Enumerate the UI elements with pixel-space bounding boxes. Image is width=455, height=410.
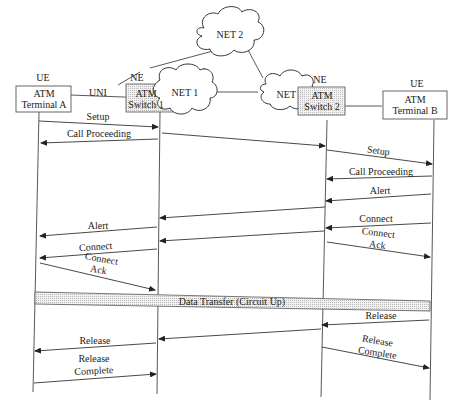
sequence-diagram: UE ATM Terminal A UNI NE NET 2 NET 1 ATM… xyxy=(0,0,455,410)
message-alert-b-s2: Alert xyxy=(326,185,431,201)
message-connect-ack-s2-b: Connect Ack xyxy=(327,225,430,257)
data-transfer-label: Data Transfer (Circuit Up) xyxy=(179,296,285,308)
cloud-net2: NET 2 xyxy=(197,7,264,56)
message-alert-s2-s1 xyxy=(160,207,325,218)
lifeline-switch-1 xyxy=(157,112,160,394)
role-label: NE xyxy=(130,72,143,83)
entity-label-line1: ATM xyxy=(311,90,332,101)
message-setup-a-s1: Setup xyxy=(39,111,158,127)
cloud-label: NET 2 xyxy=(217,29,244,40)
message-label-line1: Release xyxy=(78,353,110,364)
uni-label: UNI xyxy=(89,87,107,98)
message-label-line2: Ack xyxy=(368,238,386,251)
entity-label-line1: ATM xyxy=(33,88,54,99)
message-call-proceeding-s1-a: Call Proceeding xyxy=(41,128,158,143)
message-setup-s2-b: Setup xyxy=(327,144,432,164)
message-label-line2: Ack xyxy=(89,263,107,277)
entity-label-line2: Switch 2 xyxy=(304,101,339,112)
message-label: Setup xyxy=(87,111,110,122)
entity-label-line2: Switch 1 xyxy=(128,99,163,110)
entity-terminal-a: UE ATM Terminal A xyxy=(16,72,71,112)
message-label-line1: Connect xyxy=(361,225,396,240)
message-label: Release xyxy=(365,310,397,321)
link-net2-net3 xyxy=(248,50,263,78)
message-label: Release xyxy=(79,335,111,346)
message-s1-s2 xyxy=(162,133,325,146)
message-release-s2-s1 xyxy=(159,329,321,339)
message-release-complete-s2-b: Release Complete xyxy=(322,333,429,368)
message-connect-s2-s1 xyxy=(160,231,324,241)
message-label: Connect xyxy=(359,213,393,224)
role-label: UE xyxy=(36,72,49,83)
message-call-proceeding-b-s2: Call Proceeding xyxy=(327,166,432,179)
cloud-label: NET 1 xyxy=(172,87,199,98)
entity-label-line2: Terminal B xyxy=(392,105,437,116)
message-alert-s1-a: Alert xyxy=(40,220,157,236)
message-release-s1-a: Release xyxy=(35,335,156,351)
message-release-complete-a-s1: Release Complete xyxy=(34,353,156,383)
message-connect-ack-a-s1: Connect Ack xyxy=(40,250,155,290)
entity-label-line1: ATM xyxy=(404,94,425,105)
message-label: Alert xyxy=(370,185,391,196)
entity-label-line2: Terminal A xyxy=(21,99,67,110)
role-label: UE xyxy=(410,78,423,89)
entity-label-line1: ATM xyxy=(135,88,156,99)
entity-terminal-b: UE ATM Terminal B xyxy=(383,78,447,119)
lifeline-terminal-b xyxy=(430,120,434,400)
lifeline-terminal-a xyxy=(33,112,39,392)
message-label: Call Proceeding xyxy=(349,166,413,177)
message-label-line2: Complete xyxy=(74,364,114,377)
role-label: NE xyxy=(313,74,326,85)
data-transfer-band: Data Transfer (Circuit Up) xyxy=(35,292,430,311)
release-messages: Release Release Release Complete Release… xyxy=(34,310,429,383)
lifeline-switch-2 xyxy=(321,120,327,397)
message-connect-b-s2: Connect xyxy=(326,213,431,228)
messages: Setup Call Proceeding Setup Call Proceed… xyxy=(39,111,432,290)
message-release-b-s2: Release xyxy=(322,310,429,325)
message-label: Call Proceeding xyxy=(67,128,131,139)
message-label: Alert xyxy=(88,220,109,231)
